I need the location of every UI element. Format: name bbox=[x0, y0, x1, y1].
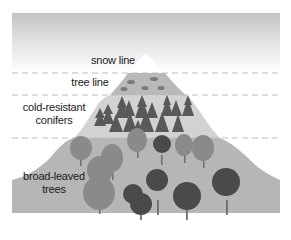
tree-line-label: tree line bbox=[50, 76, 130, 89]
broadleaf-zone-label: broad-leaved trees bbox=[8, 170, 100, 196]
broadleaf-label-line2: trees bbox=[8, 183, 100, 196]
conifer-label-line2: conifers bbox=[8, 114, 100, 127]
conifer-label-line1: cold-resistant bbox=[8, 101, 100, 114]
conifer-zone-label: cold-resistant conifers bbox=[8, 101, 100, 127]
snow-line-label: snow line bbox=[73, 54, 153, 67]
broadleaf-label-line1: broad-leaved bbox=[8, 170, 100, 183]
